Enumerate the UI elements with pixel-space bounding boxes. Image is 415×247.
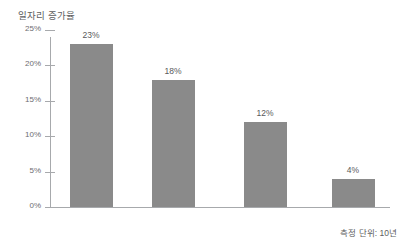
- bar-value-label: 18%: [164, 66, 181, 76]
- y-axis-tick-label: 20%: [25, 59, 41, 68]
- plot-area: 0%5%10%15%20%25% 23%1976~198518%1986~199…: [50, 30, 390, 207]
- y-axis-tick-mark: [45, 101, 55, 102]
- bar[interactable]: [244, 122, 287, 207]
- x-axis-line: [50, 207, 390, 208]
- y-axis-tick-label: 25%: [25, 24, 41, 33]
- y-axis-tick-label: 10%: [25, 130, 41, 139]
- bar-value-label: 12%: [256, 108, 273, 118]
- y-axis-tick-label: 5%: [29, 166, 41, 175]
- y-axis-tick-label: 15%: [25, 95, 41, 104]
- bar[interactable]: [70, 44, 113, 207]
- y-axis-tick-mark: [45, 65, 55, 66]
- y-axis-line: [50, 37, 51, 207]
- chart-title: 일자리 증가율: [18, 8, 75, 22]
- y-axis-tick-mark: [45, 30, 55, 31]
- y-axis-tick-mark: [45, 207, 55, 208]
- chart-footnote: 측정 단위: 10년: [340, 226, 397, 238]
- bar-value-label: 23%: [82, 30, 99, 40]
- bar[interactable]: [152, 80, 195, 207]
- y-axis-tick-mark: [45, 172, 55, 173]
- bar[interactable]: [332, 179, 375, 207]
- bar-value-label: 4%: [347, 165, 359, 175]
- y-axis-tick-label: 0%: [29, 201, 41, 210]
- y-axis-tick-mark: [45, 136, 55, 137]
- bar-chart: 일자리 증가율 0%5%10%15%20%25% 23%1976~198518%…: [0, 0, 415, 247]
